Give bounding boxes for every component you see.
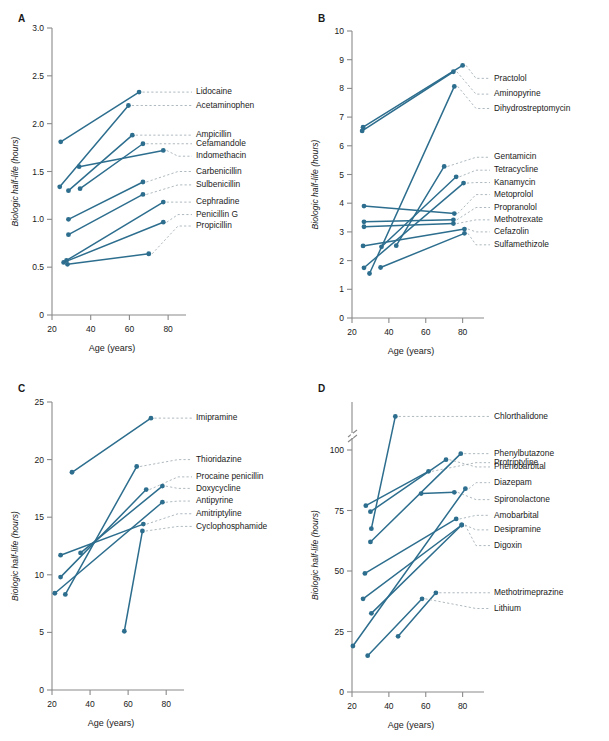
series-label-D-7: Desipramine: [494, 524, 541, 534]
data-point-C-1-end: [134, 464, 139, 469]
leader-line-C-3: [166, 486, 192, 488]
series-label-A-3: Cefamandole: [196, 138, 246, 148]
y-tick-label-B-1: 1: [339, 284, 344, 294]
data-point-A-2-start: [66, 188, 71, 193]
data-point-C-0-start: [70, 470, 75, 475]
data-point-C-6-end: [140, 529, 145, 534]
series-label-B-10: Sulfamethizole: [494, 239, 549, 249]
series-line-D-1: [366, 471, 429, 505]
data-point-C-2-start: [58, 575, 63, 580]
series-line-D-10: [368, 599, 422, 656]
series-label-A-5: Carbenicillin: [196, 166, 242, 176]
leader-line-C-1: [140, 460, 192, 467]
series-label-D-4: Diazepam: [494, 477, 532, 487]
data-point-D-10-end: [420, 596, 425, 601]
leader-line-B-2: [458, 86, 490, 108]
data-point-B-10-end: [462, 231, 467, 236]
series-line-B-6: [364, 206, 454, 213]
series-label-A-7: Cephradine: [196, 196, 240, 206]
data-point-B-1-end: [451, 69, 456, 74]
leader-line-D-8: [465, 525, 490, 546]
data-point-A-5-start: [66, 217, 71, 222]
leader-line-A-5: [146, 172, 192, 183]
y-tick-label-B-0: 0: [339, 313, 344, 323]
data-point-C-5-start: [58, 553, 63, 558]
data-point-A-0-end: [137, 90, 142, 95]
y-tick-label-B-2: 2: [339, 256, 344, 266]
data-point-D-4-start: [351, 644, 356, 649]
data-point-A-4-end: [161, 148, 166, 153]
y-tick-label-D-0: 0: [339, 687, 344, 697]
y-tick-label-D-3: 75: [335, 506, 345, 516]
y-tick-label-D-2: 50: [335, 566, 345, 576]
series-line-D-9: [398, 593, 436, 637]
data-point-D-2-start: [368, 540, 373, 545]
y-axis-title-C: Biologic half-life (hours): [10, 511, 20, 601]
series-line-B-7: [364, 220, 453, 222]
data-point-A-3-end: [141, 141, 146, 146]
series-label-B-3: Gentamicin: [494, 151, 537, 161]
y-tick-label-A-4: 2.0: [32, 119, 44, 129]
x-axis-title-B: Age (years): [388, 346, 435, 356]
leader-line-D-3: [449, 460, 490, 467]
leader-line-A-6: [146, 185, 192, 195]
leader-line-B-0: [466, 65, 490, 78]
data-point-C-0-end: [149, 416, 154, 421]
series-label-A-1: Acetaminophen: [196, 100, 255, 110]
data-point-C-3-end: [160, 484, 165, 489]
series-line-B-9: [363, 229, 464, 246]
data-point-D-6-start: [363, 571, 368, 576]
leader-line-B-3: [448, 157, 490, 166]
series-label-D-10: Lithium: [494, 603, 521, 613]
data-point-B-6-start: [362, 204, 367, 209]
data-point-D-5-start: [419, 491, 424, 496]
series-label-B-8: Methotrexate: [494, 214, 543, 224]
data-point-B-8-end: [451, 221, 456, 226]
series-line-D-7: [363, 525, 462, 599]
series-label-D-6: Amobarbital: [494, 510, 539, 520]
series-line-A-4: [79, 150, 163, 166]
y-tick-label-B-4: 4: [339, 198, 344, 208]
series-label-B-1: Aminopyrine: [494, 88, 541, 98]
data-point-A-8-end: [161, 220, 166, 225]
data-point-A-9-end: [146, 251, 151, 256]
y-tick-label-D-4: 100: [330, 445, 344, 455]
data-point-A-6-start: [66, 232, 71, 237]
x-tick-label-C-1: 40: [85, 699, 95, 709]
x-tick-label-B-3: 80: [458, 327, 468, 337]
data-point-C-6-start: [122, 629, 127, 634]
y-tick-label-C-1: 5: [39, 627, 44, 637]
series-line-A-0: [61, 92, 139, 142]
y-tick-label-B-3: 3: [339, 227, 344, 237]
data-point-C-2-end: [144, 487, 149, 492]
series-label-B-5: Kanamycin: [494, 177, 536, 187]
y-tick-label-C-4: 20: [35, 455, 45, 465]
series-label-D-9: Methotrimeprazine: [494, 587, 564, 597]
data-point-A-5-end: [141, 180, 146, 185]
data-point-B-2-end: [452, 84, 457, 89]
x-tick-label-D-2: 60: [421, 701, 431, 711]
series-label-C-4: Antipyrine: [196, 495, 234, 505]
data-point-B-7-start: [362, 219, 367, 224]
x-tick-label-A-2: 60: [125, 324, 135, 334]
data-point-D-9-start: [396, 634, 401, 639]
y-tick-label-B-5: 5: [339, 170, 344, 180]
data-point-C-4-start: [52, 591, 57, 596]
data-point-A-3-start: [78, 186, 83, 191]
y-tick-label-B-7: 7: [339, 112, 344, 122]
leader-line-C-2: [150, 477, 192, 490]
data-point-B-5-start: [362, 265, 367, 270]
series-line-C-0: [72, 418, 151, 472]
y-tick-label-C-2: 10: [35, 570, 45, 580]
data-point-D-9-end: [433, 590, 438, 595]
series-label-D-2: Phenylbutazone: [494, 448, 554, 458]
y-tick-label-A-2: 1.0: [32, 214, 44, 224]
series-label-D-8: Digoxin: [494, 540, 522, 550]
panel-a: A 00.51.01.52.02.53.020406080Age (years)…: [0, 0, 305, 370]
series-label-B-7: Propranolol: [494, 202, 537, 212]
leader-line-A-8: [167, 215, 192, 223]
series-label-B-2: Dihydrostreptomycin: [494, 103, 571, 113]
data-point-B-10-start: [378, 265, 383, 270]
y-tick-label-B-10: 10: [335, 26, 345, 36]
data-point-D-5-end: [452, 490, 457, 495]
